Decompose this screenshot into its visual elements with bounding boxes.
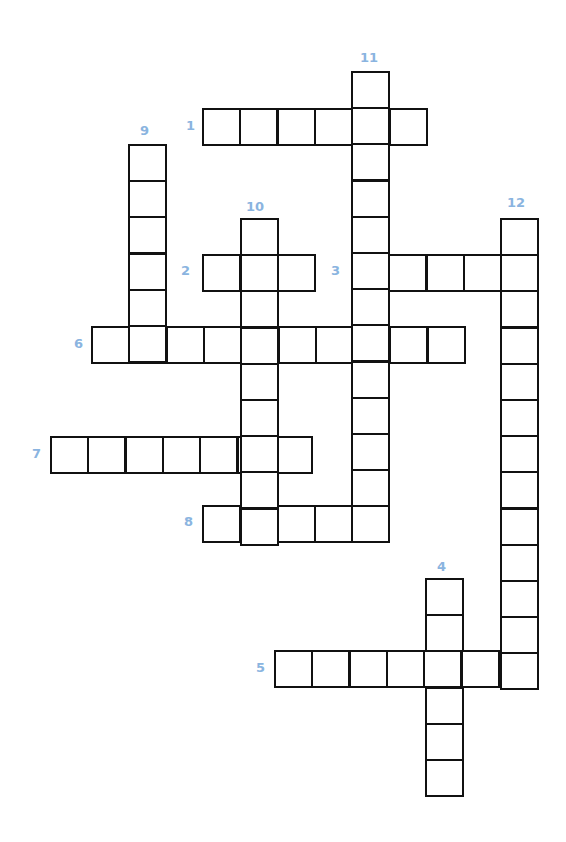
crossword-cell-1-across-1[interactable] xyxy=(202,108,241,146)
crossword-cell-10-down-1[interactable] xyxy=(240,218,279,256)
crossword-cell-7-across-7[interactable] xyxy=(274,436,313,474)
crossword-cell-11-down-1[interactable] xyxy=(351,71,390,109)
clue-number-2-across: 2 xyxy=(181,264,190,277)
crossword-cell-12-down-9[interactable] xyxy=(500,508,539,546)
crossword-cell-11-down-13[interactable] xyxy=(351,505,390,543)
crossword-cell-10-down-6[interactable] xyxy=(240,399,279,437)
crossword-cell-12-down-12[interactable] xyxy=(500,616,539,654)
clue-number-9-down: 9 xyxy=(140,124,149,137)
clue-number-3-across: 3 xyxy=(331,264,340,277)
crossword-cell-7-across-5[interactable] xyxy=(199,436,238,474)
crossword-cell-1-across-4[interactable] xyxy=(314,108,353,146)
crossword-cell-3-across-3[interactable] xyxy=(426,254,465,292)
crossword-cell-8-across-3[interactable] xyxy=(277,505,316,543)
crossword-cell-5-across-5[interactable] xyxy=(423,650,462,688)
crossword-cell-10-down-9[interactable] xyxy=(240,508,279,546)
clue-number-10-down: 10 xyxy=(246,200,264,213)
crossword-cell-5-across-3[interactable] xyxy=(349,650,388,688)
crossword-cell-11-down-2[interactable] xyxy=(351,107,390,145)
crossword-cell-10-down-3[interactable] xyxy=(240,290,279,328)
crossword-cell-7-across-2[interactable] xyxy=(87,436,126,474)
crossword-grid: 123456789101112 xyxy=(0,0,566,842)
crossword-cell-11-down-12[interactable] xyxy=(351,469,390,507)
crossword-cell-12-down-6[interactable] xyxy=(500,399,539,437)
crossword-cell-7-across-3[interactable] xyxy=(125,436,164,474)
crossword-cell-12-down-3[interactable] xyxy=(500,290,539,328)
crossword-cell-4-down-5[interactable] xyxy=(425,723,464,761)
crossword-cell-4-down-1[interactable] xyxy=(425,578,464,616)
crossword-cell-3-across-4[interactable] xyxy=(463,254,502,292)
crossword-cell-12-down-1[interactable] xyxy=(500,218,539,256)
crossword-cell-7-across-4[interactable] xyxy=(162,436,201,474)
crossword-cell-12-down-7[interactable] xyxy=(500,435,539,473)
crossword-cell-10-down-7[interactable] xyxy=(240,435,279,473)
clue-number-11-down: 11 xyxy=(360,51,378,64)
crossword-cell-1-across-2[interactable] xyxy=(239,108,278,146)
clue-number-12-down: 12 xyxy=(507,196,525,209)
crossword-cell-4-down-2[interactable] xyxy=(425,614,464,652)
clue-number-6-across: 6 xyxy=(74,337,83,350)
crossword-cell-11-down-9[interactable] xyxy=(351,361,390,399)
crossword-cell-4-down-4[interactable] xyxy=(425,687,464,725)
crossword-cell-10-down-5[interactable] xyxy=(240,363,279,401)
crossword-cell-11-down-6[interactable] xyxy=(351,252,390,290)
crossword-cell-9-down-3[interactable] xyxy=(128,216,167,254)
crossword-cell-2-across-1[interactable] xyxy=(202,254,241,292)
crossword-cell-9-down-4[interactable] xyxy=(128,253,167,291)
crossword-cell-11-down-10[interactable] xyxy=(351,397,390,435)
crossword-cell-12-down-13[interactable] xyxy=(500,652,539,690)
crossword-cell-11-down-11[interactable] xyxy=(351,433,390,471)
crossword-cell-12-down-11[interactable] xyxy=(500,580,539,618)
crossword-cell-6-across-6[interactable] xyxy=(278,326,317,364)
crossword-cell-6-across-4[interactable] xyxy=(203,326,242,364)
crossword-cell-12-down-10[interactable] xyxy=(500,544,539,582)
crossword-cell-5-across-1[interactable] xyxy=(274,650,313,688)
crossword-cell-5-across-4[interactable] xyxy=(386,650,425,688)
clue-number-8-across: 8 xyxy=(184,515,193,528)
clue-number-1-across: 1 xyxy=(186,119,195,132)
crossword-cell-6-across-1[interactable] xyxy=(91,326,130,364)
clue-number-4-down: 4 xyxy=(437,560,446,573)
crossword-cell-3-across-2[interactable] xyxy=(388,254,427,292)
crossword-cell-1-across-3[interactable] xyxy=(277,108,316,146)
crossword-cell-2-across-3[interactable] xyxy=(277,254,316,292)
crossword-cell-10-down-8[interactable] xyxy=(240,471,279,509)
crossword-cell-7-across-1[interactable] xyxy=(50,436,89,474)
crossword-cell-9-down-5[interactable] xyxy=(128,289,167,327)
crossword-cell-6-across-9[interactable] xyxy=(389,326,428,364)
crossword-cell-11-down-3[interactable] xyxy=(351,143,390,181)
crossword-cell-9-down-6[interactable] xyxy=(128,325,167,363)
crossword-cell-1-across-6[interactable] xyxy=(389,108,428,146)
crossword-cell-5-across-6[interactable] xyxy=(461,650,500,688)
crossword-cell-11-down-7[interactable] xyxy=(351,288,390,326)
crossword-cell-11-down-8[interactable] xyxy=(351,324,390,362)
crossword-cell-12-down-2[interactable] xyxy=(500,254,539,292)
crossword-cell-4-down-6[interactable] xyxy=(425,759,464,797)
clue-number-5-across: 5 xyxy=(256,661,265,674)
crossword-cell-12-down-8[interactable] xyxy=(500,471,539,509)
crossword-cell-11-down-5[interactable] xyxy=(351,216,390,254)
crossword-cell-10-down-2[interactable] xyxy=(240,254,279,292)
crossword-cell-10-down-4[interactable] xyxy=(240,327,279,365)
crossword-cell-11-down-4[interactable] xyxy=(351,180,390,218)
crossword-cell-9-down-2[interactable] xyxy=(128,180,167,218)
crossword-cell-12-down-5[interactable] xyxy=(500,363,539,401)
crossword-cell-8-across-1[interactable] xyxy=(202,505,241,543)
crossword-cell-5-across-2[interactable] xyxy=(311,650,350,688)
clue-number-7-across: 7 xyxy=(32,447,41,460)
crossword-cell-6-across-10[interactable] xyxy=(427,326,466,364)
crossword-cell-12-down-4[interactable] xyxy=(500,327,539,365)
crossword-cell-8-across-4[interactable] xyxy=(314,505,353,543)
crossword-cell-9-down-1[interactable] xyxy=(128,144,167,182)
crossword-cell-6-across-7[interactable] xyxy=(315,326,354,364)
crossword-cell-6-across-3[interactable] xyxy=(166,326,205,364)
